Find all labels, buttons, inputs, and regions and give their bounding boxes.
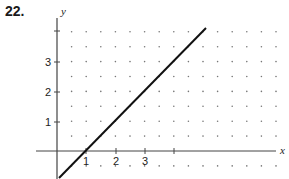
x-tick-2: 2 — [113, 155, 119, 167]
x-tick-3: 3 — [142, 155, 148, 167]
x-axis-label: x — [279, 144, 285, 156]
dot-grid — [71, 31, 277, 167]
graph: 1 2 3 1 2 3 y x — [0, 0, 289, 179]
y-tick-1: 1 — [45, 116, 51, 128]
x-tick-1: 1 — [83, 155, 89, 167]
plotted-line — [59, 28, 206, 178]
y-axis-label: y — [60, 5, 66, 17]
y-tick-3: 3 — [45, 56, 51, 68]
y-tick-2: 2 — [45, 86, 51, 98]
